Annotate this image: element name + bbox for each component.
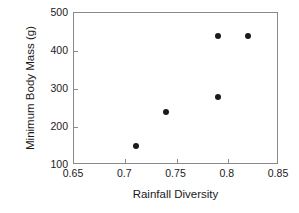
x-axis-tick — [177, 159, 178, 163]
scatter-plot-figure: Minimum Body Mass (g) 100200300400500 0.… — [0, 0, 299, 213]
y-axis-title: Minimum Body Mass (g) — [22, 12, 38, 164]
data-point — [133, 143, 139, 149]
x-axis-tick-label: 0.8 — [207, 168, 247, 179]
x-axis-tick — [228, 159, 229, 163]
y-axis-tick — [74, 127, 78, 128]
x-axis-tick-label: 0.65 — [53, 168, 93, 179]
data-point — [215, 94, 221, 100]
data-point — [215, 33, 221, 39]
data-point — [163, 109, 169, 115]
plot-area — [74, 13, 277, 163]
y-axis-tick — [74, 51, 78, 52]
x-axis-tick — [125, 159, 126, 163]
x-axis-tick-label: 0.7 — [104, 168, 144, 179]
x-axis-tick-label: 0.75 — [156, 168, 196, 179]
y-axis-tick-label: 400 — [40, 45, 68, 56]
plot-frame — [73, 12, 278, 164]
y-axis-tick-label: 300 — [40, 83, 68, 94]
y-axis-tick — [74, 89, 78, 90]
y-axis-tick-label: 500 — [40, 7, 68, 18]
y-axis-tick-label: 200 — [40, 121, 68, 132]
x-axis-tick-label: 0.85 — [258, 168, 298, 179]
data-point — [245, 33, 251, 39]
x-axis-title: Rainfall Diversity — [73, 188, 278, 200]
